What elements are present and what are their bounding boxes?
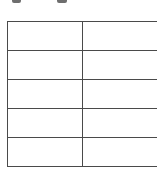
table-row	[8, 51, 158, 80]
table-row	[8, 109, 158, 138]
table-cell[interactable]	[8, 138, 83, 167]
table-row	[8, 138, 158, 167]
table-cell[interactable]	[8, 22, 83, 51]
table-container	[7, 21, 157, 167]
table-cell[interactable]	[83, 80, 158, 109]
clipped-text-fragment-2	[57, 0, 67, 3]
clipped-text-fragment-1	[12, 0, 21, 3]
table-cell[interactable]	[83, 109, 158, 138]
table-cell[interactable]	[83, 138, 158, 167]
table-cell[interactable]	[83, 22, 158, 51]
table-cell[interactable]	[8, 80, 83, 109]
empty-grid-table	[7, 21, 157, 167]
table-cell[interactable]	[8, 109, 83, 138]
table-row	[8, 80, 158, 109]
table-row	[8, 22, 158, 51]
table-cell[interactable]	[83, 51, 158, 80]
table-cell[interactable]	[8, 51, 83, 80]
